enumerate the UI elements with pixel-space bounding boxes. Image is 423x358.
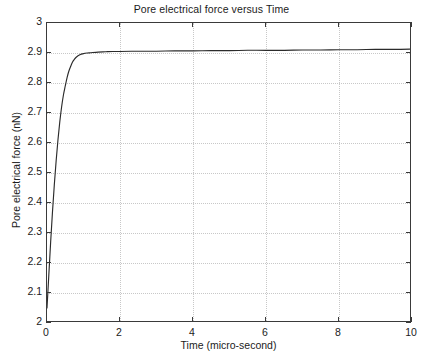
y-axis-tick [406,232,411,233]
chart-figure: Pore electrical force versus Time 22.12.… [0,0,423,358]
y-axis-tick [406,292,411,293]
x-axis-title: Time (micro-second) [46,339,411,351]
x-axis-tick [192,317,193,322]
y-axis-tick [46,262,51,263]
x-axis-tick-label: 10 [391,326,423,338]
y-axis-title: Pore electrical force (nN) [10,70,22,270]
y-axis-tick [406,142,411,143]
plot-area [46,22,411,322]
y-axis-tick-label: 2.9 [0,45,42,57]
y-axis-tick [46,202,51,203]
x-axis-tick-label: 2 [99,326,139,338]
y-axis-tick [46,322,51,323]
y-axis-tick-label: 3 [0,15,42,27]
y-axis-tick [406,172,411,173]
x-axis-tick [411,22,412,27]
y-axis-tick [406,202,411,203]
x-axis-tick-label: 6 [245,326,285,338]
x-axis-tick [411,317,412,322]
x-axis-tick [46,22,47,27]
y-axis-tick [406,52,411,53]
x-axis-tick [338,317,339,322]
x-axis-tick [265,317,266,322]
x-axis-tick-label: 8 [318,326,358,338]
y-axis-tick [46,82,51,83]
y-axis-tick [406,322,411,323]
x-axis-tick [338,22,339,27]
y-axis-tick [46,172,51,173]
x-axis-tick-label: 0 [26,326,66,338]
x-axis-tick [265,22,266,27]
y-axis-tick [46,52,51,53]
x-axis-tick-label: 4 [172,326,212,338]
chart-title: Pore electrical force versus Time [0,3,423,15]
y-axis-tick [46,232,51,233]
y-axis-tick-label: 2.1 [0,285,42,297]
data-curve [47,23,411,322]
y-axis-tick [46,112,51,113]
x-axis-tick [192,22,193,27]
x-axis-tick [46,317,47,322]
x-axis-tick [119,22,120,27]
y-axis-tick [406,112,411,113]
y-axis-tick [406,82,411,83]
x-axis-tick [119,317,120,322]
y-axis-tick [46,142,51,143]
y-axis-tick [46,292,51,293]
y-axis-tick [406,262,411,263]
